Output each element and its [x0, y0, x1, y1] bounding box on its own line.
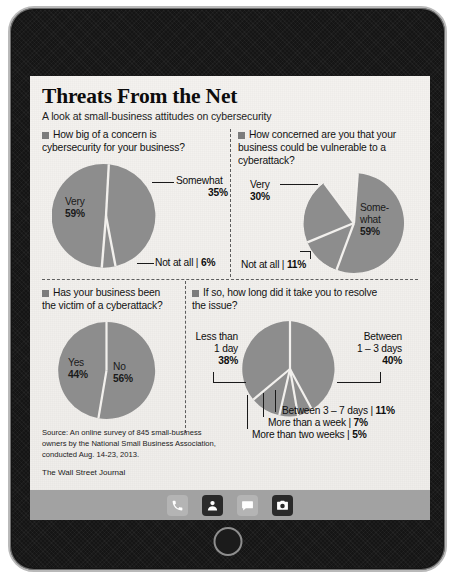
app-toolbar	[30, 490, 430, 520]
bullet-square-icon	[42, 290, 49, 297]
leader-line-btw-h	[337, 382, 380, 383]
bullet-square-icon	[238, 132, 245, 139]
question-line-1: If so, how long did it take you to resol…	[203, 287, 377, 298]
tablet-device: Threats From the Net A look at small-bus…	[8, 6, 447, 572]
leader-line-notatall-h	[300, 251, 311, 252]
leader-line-twoweeks	[247, 395, 248, 429]
leader-line-notatall	[137, 263, 154, 264]
contacts-icon[interactable]	[202, 495, 223, 516]
bullet-square-icon	[192, 290, 199, 297]
chart-question-4: If so, how long did it take you to resol…	[192, 287, 418, 313]
chart-question-1: How big of a concern is cybersecurity fo…	[42, 129, 228, 155]
question-line-1: How concerned are you that your	[249, 129, 396, 140]
chart-question-2: How concerned are you that your business…	[238, 129, 418, 168]
chart-panel-concern-level: How big of a concern is cybersecurity fo…	[42, 129, 228, 277]
slice-label-yes: Yes44%	[68, 357, 88, 381]
leader-line-somewhat	[152, 182, 174, 183]
slice-label-no: No56%	[113, 361, 133, 385]
slice-label-very: Very59%	[65, 196, 85, 220]
leader-line-notatall-v	[310, 251, 311, 259]
messages-icon[interactable]	[237, 495, 258, 516]
phone-icon[interactable]	[167, 495, 188, 516]
chart-panel-resolution-time: If so, how long did it take you to resol…	[192, 287, 418, 433]
page-title: Threats From the Net	[42, 85, 418, 108]
question-line-2: business could be vulnerable to a	[238, 142, 386, 153]
pie-chart-vulnerability	[302, 171, 406, 275]
chart-grid: How big of a concern is cybersecurity fo…	[42, 129, 418, 459]
leader-line-less-h	[213, 382, 246, 383]
slice-label-between-3-7-days: Between 3 – 7 days | 11%	[282, 405, 395, 417]
slice-label-very: Very30%	[250, 179, 270, 203]
question-line-1: Has your business been	[53, 287, 160, 298]
leader-line-very	[280, 184, 318, 185]
slice-label-between-1-3-days: Between1 – 3 days40%	[344, 331, 402, 367]
bullet-square-icon	[42, 132, 49, 139]
publisher-name: The Wall Street Journal	[42, 468, 125, 477]
tablet-screen: Threats From the Net A look at small-bus…	[30, 76, 430, 520]
question-line-2: the victim of a cyberattack?	[42, 300, 163, 311]
slice-label-more-than-a-week: More than a week | 7%	[268, 417, 368, 429]
slice-label-somewhat: Somewhat35%	[176, 175, 228, 199]
leader-line-d37	[275, 390, 276, 412]
slice-label-less-than-1-day: Less than1 day38%	[194, 331, 238, 367]
page-subtitle: A look at small-business attitudes on cy…	[42, 110, 418, 122]
slice-label-somewhat: Some-what59%	[360, 202, 389, 238]
chart-panel-victim: Has your business been the victim of a c…	[42, 287, 182, 433]
chart-panel-vulnerability: How concerned are you that your business…	[238, 129, 418, 277]
camera-icon[interactable]	[272, 495, 293, 516]
divider-horizontal	[42, 279, 418, 280]
question-line-3: cyberattack?	[238, 155, 295, 166]
slice-label-notatall: Not at all | 6%	[155, 257, 215, 269]
question-line-2: cybersecurity for your business?	[42, 142, 185, 153]
home-button[interactable]	[213, 527, 242, 556]
slice-label-notatall: Not at all | 11%	[241, 259, 306, 271]
question-line-2: the issue?	[192, 300, 237, 311]
divider-vertical-bottom	[185, 281, 186, 433]
source-note: Source: An online survey of 845 small-bu…	[42, 428, 217, 460]
infographic: Threats From the Net A look at small-bus…	[30, 76, 430, 490]
leader-line-less-v	[213, 372, 214, 382]
question-line-1: How big of a concern is	[53, 129, 157, 140]
pie-chart-resolution-time	[240, 319, 340, 419]
chart-question-3: Has your business been the victim of a c…	[42, 287, 182, 313]
divider-vertical-top	[230, 129, 231, 277]
leader-line-btw-v	[380, 372, 381, 383]
leader-line-week	[263, 393, 264, 417]
slice-label-more-than-two-weeks: More than two weeks | 5%	[252, 429, 367, 441]
